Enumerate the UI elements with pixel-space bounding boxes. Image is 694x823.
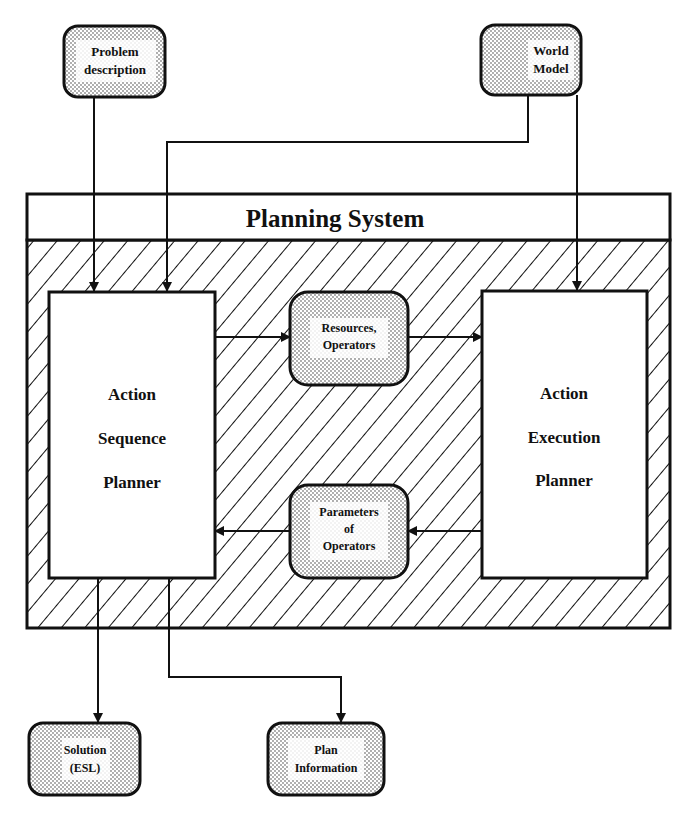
solution-line2: (ESL) bbox=[70, 761, 101, 775]
plan-information-line2: Information bbox=[295, 761, 358, 775]
problem-description-box: Problem description bbox=[64, 26, 165, 97]
resources-line2: Operators bbox=[323, 338, 376, 352]
execution-planner-line3: Planner bbox=[535, 471, 593, 490]
sequence-planner-line2: Sequence bbox=[98, 429, 166, 448]
solution-esl-box: Solution (ESL) bbox=[29, 723, 140, 795]
parameters-of-operators-box: Parameters of Operators bbox=[290, 485, 408, 578]
planning-system-diagram: Planning System Problem description Worl… bbox=[0, 0, 694, 823]
parameters-line3: Operators bbox=[323, 539, 376, 553]
sequence-planner-line3: Planner bbox=[103, 473, 161, 492]
execution-planner-line1: Action bbox=[540, 384, 589, 403]
plan-information-line1: Plan bbox=[314, 743, 338, 757]
solution-line1: Solution bbox=[64, 743, 107, 757]
resources-operators-box: Resources, Operators bbox=[290, 292, 408, 385]
planning-system-title: Planning System bbox=[246, 205, 425, 232]
problem-description-line1: Problem bbox=[91, 44, 139, 59]
sequence-planner-line1: Action bbox=[108, 385, 157, 404]
action-sequence-planner: Action Sequence Planner bbox=[49, 292, 215, 578]
parameters-line2: of bbox=[344, 522, 355, 536]
execution-planner-line2: Execution bbox=[528, 428, 601, 447]
world-model-box: World Model bbox=[481, 25, 581, 95]
world-model-line2: Model bbox=[533, 61, 569, 76]
world-model-line1: World bbox=[533, 43, 569, 58]
action-execution-planner: Action Execution Planner bbox=[482, 291, 647, 578]
resources-line1: Resources, bbox=[322, 321, 377, 335]
parameters-line1: Parameters bbox=[319, 505, 379, 519]
plan-information-box: Plan Information bbox=[268, 723, 384, 795]
problem-description-line2: description bbox=[84, 62, 147, 77]
